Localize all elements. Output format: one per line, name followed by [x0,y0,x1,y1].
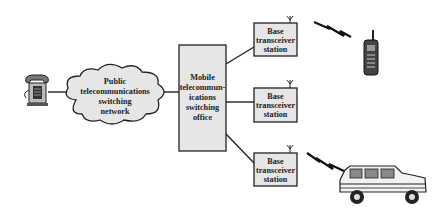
pstn-label-line4: network [100,107,130,116]
bts1-label-line3: station [264,45,288,54]
bts-box-3: Base transceiver station [254,145,297,186]
pstn-label-line1: Public [104,77,127,86]
bts1-label-line1: Base [267,27,284,36]
car-icon [340,166,426,204]
bts-box-1: Base transceiver station [254,16,297,56]
mtso-label-line1: Mobile [190,73,215,82]
edge-mtso-bts1 [226,47,254,64]
mtso-label-line3: ications [189,93,216,102]
bts3-label-line3: station [264,175,288,184]
mtso-label-line2: telecommun- [180,83,226,92]
bts3-label-line2: transceiver [256,166,295,175]
wireless-signal-icon [314,22,351,37]
bts2-label-line2: transceiver [256,101,295,110]
telephone-icon [25,75,49,106]
wireless-signal-icon [307,153,344,171]
mtso-box: Mobile telecommun- ications switching of… [179,45,226,151]
bts2-label-line3: station [264,110,288,119]
bts2-label-line1: Base [267,92,284,101]
edge-mtso-bts3 [226,134,254,163]
pstn-cloud: Public telecommunications switching netw… [66,64,164,124]
pstn-label-line2: telecommunications [80,87,150,96]
mtso-label-line5: office [193,113,212,122]
bts-box-2: Base transceiver station [254,80,297,122]
diagram-canvas: Public telecommunications switching netw… [0,0,445,218]
pstn-label-line3: switching [98,97,132,106]
mobile-phone-icon [364,30,378,75]
bts1-label-line2: transceiver [256,36,295,45]
mtso-label-line4: switching [186,103,220,112]
bts3-label-line1: Base [267,157,284,166]
